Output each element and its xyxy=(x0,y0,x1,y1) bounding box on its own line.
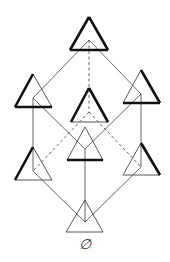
triangle-node-left1 xyxy=(15,147,52,180)
triangle-node-right1 xyxy=(123,143,160,175)
hasse-diagram: ∅ xyxy=(0,0,170,262)
empty-set-label: ∅ xyxy=(79,236,92,252)
edge-top-right2 xyxy=(89,40,141,94)
triangle-node-bottom xyxy=(66,200,103,232)
triangle-node-right2 xyxy=(123,70,160,103)
triangle-node-center2 xyxy=(71,88,108,122)
edge-left1-bottom xyxy=(33,171,85,222)
triangle-node-top xyxy=(70,17,108,50)
triangle-node-left2 xyxy=(15,74,52,107)
